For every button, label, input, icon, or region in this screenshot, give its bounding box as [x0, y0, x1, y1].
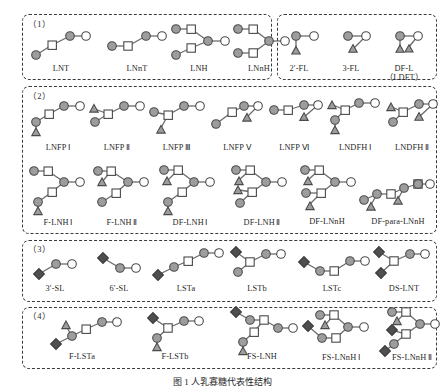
structure-sublabel-ldft: （LDFT） [385, 73, 423, 83]
structure-lnnt [106, 28, 168, 62]
structure-label-lstc: LSTc [323, 284, 341, 293]
structure-label-lnnh: LNnH [248, 64, 270, 73]
structure-df-para-lnnh [358, 180, 438, 220]
structure-label-lnfp-5: LNFPⅤ [223, 142, 251, 152]
structure-label-lnh: LNH [190, 64, 208, 73]
structure-lnfp-2 [88, 100, 148, 142]
structure-label-lndfh-2: LNDFHⅡ [395, 142, 429, 152]
structure-label-lnfp-1: LNFPⅠ [46, 142, 71, 152]
structure-label-df-para-lnnh: DF-para-LNnH [371, 217, 424, 226]
structure-3-sl [30, 254, 84, 284]
structure-df-l [392, 28, 432, 62]
structure-label-fs-lnh: FS-LNH [247, 352, 277, 361]
structure-label-df-l: DF-L （LDFT） [385, 64, 423, 83]
structure-label-3-fl: 3-FL [342, 64, 359, 73]
structure-label-lndfh-1: LNDFHⅠ [339, 142, 371, 152]
group-number-3: （3） [28, 242, 51, 254]
structure-label-lstb: LSTb [247, 284, 267, 293]
structure-lnfp-3 [148, 100, 208, 142]
structure-label-lnt: LNT [53, 64, 70, 73]
figure-caption: 图 1 人乳寡糖代表性结构 [0, 375, 445, 386]
structure-f-lsta [48, 316, 126, 352]
structure-label-df-lnh-1: DF-LNHⅠ [173, 217, 208, 227]
structure-lnh [170, 22, 232, 64]
structure-label-lnfp-3: LNFPⅢ [163, 142, 192, 152]
structure-fs-lnh [228, 308, 302, 358]
structure-label-fs-lnnh-1: FS-LNnHⅠ [322, 352, 360, 362]
structure-label-df-lnnh: DF-LNnH [309, 217, 345, 226]
structure-label-3-sl: 3′-SL [45, 284, 64, 293]
structure-label-2-fl: 2′-FL [289, 64, 308, 73]
structure-label-fs-lnnh-2: FS-LNnHⅡ [392, 352, 432, 362]
structure-lndfh-1 [325, 98, 383, 144]
hmo-structure-figure: （1） LNT [0, 0, 445, 386]
structure-lnfp-5 [210, 100, 268, 142]
structure-3-fl [340, 28, 380, 62]
structure-df-lnnh [297, 166, 359, 218]
structure-label-lnnt: LNnT [127, 64, 148, 73]
structure-label-f-lnh-1: F-LNHⅠ [44, 217, 73, 227]
structure-label-f-lstb: F-LSTb [161, 352, 188, 361]
structure-lnt [30, 28, 92, 62]
structure-fs-lnnh-1 [300, 310, 378, 356]
structure-6-sl [94, 250, 148, 282]
structure-lnfp-6 [268, 100, 326, 142]
structure-label-lsta: LSTa [177, 284, 195, 293]
structure-lstc [296, 252, 372, 284]
structure-f-lnh-1 [28, 166, 90, 218]
structure-label-6-sl: 6′-SL [109, 284, 128, 293]
structure-df-lnh-1 [156, 166, 218, 218]
structure-2-fl [288, 28, 328, 62]
structure-ds-lnt [370, 246, 436, 286]
structure-f-lnh-2 [92, 166, 154, 218]
structure-df-lnh-2 [228, 166, 290, 218]
structure-lndfh-2 [385, 100, 441, 142]
structure-label-f-lsta: F-LSTa [69, 352, 95, 361]
structure-lsta [150, 248, 226, 282]
structure-label-ds-lnt: DS-LNT [389, 284, 419, 293]
structure-lstb [228, 246, 294, 284]
structure-label-df-lnh-2: DF-LNHⅡ [244, 217, 281, 227]
structure-fs-lnnh-2 [378, 308, 444, 358]
structure-label-f-lnh-2: F-LNHⅡ [107, 217, 138, 227]
structure-f-lstb [144, 312, 214, 356]
structure-lnfp-1 [30, 100, 88, 142]
structure-label-lnfp-2: LNFPⅡ [104, 142, 131, 152]
structure-label-lnfp-6: LNFPⅥ [279, 142, 309, 152]
